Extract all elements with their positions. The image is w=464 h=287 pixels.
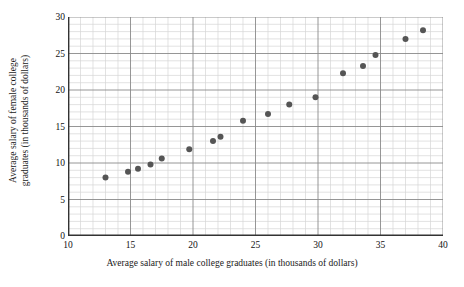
data-point <box>218 134 224 140</box>
x-axis-tick-label: 20 <box>188 240 198 250</box>
data-point <box>159 156 165 162</box>
x-axis-tick-label: 10 <box>63 240 73 250</box>
data-point <box>135 166 141 172</box>
x-axis-tick-label: 35 <box>376 240 386 250</box>
plot-canvas <box>68 17 443 236</box>
x-axis-tick-label: 15 <box>126 240 136 250</box>
x-axis-tick-label: 25 <box>251 240 261 250</box>
data-point <box>210 138 216 144</box>
data-point <box>240 118 246 124</box>
data-point <box>313 94 319 100</box>
data-point <box>265 111 271 117</box>
x-axis-tick-label: 30 <box>313 240 323 250</box>
data-point <box>125 169 131 175</box>
x-axis-tick-label: 40 <box>438 240 448 250</box>
data-point <box>403 36 409 42</box>
data-point <box>340 70 346 76</box>
data-point <box>148 161 154 167</box>
scatter-plot-figure: Average salary of female college graduat… <box>0 0 464 287</box>
data-point <box>420 27 426 33</box>
x-axis-title: Average salary of male college graduates… <box>0 258 464 268</box>
plot-area <box>68 17 443 236</box>
data-point <box>186 146 192 152</box>
data-point <box>360 63 366 69</box>
data-point <box>286 102 292 108</box>
data-point <box>373 52 379 58</box>
data-point <box>103 175 109 181</box>
